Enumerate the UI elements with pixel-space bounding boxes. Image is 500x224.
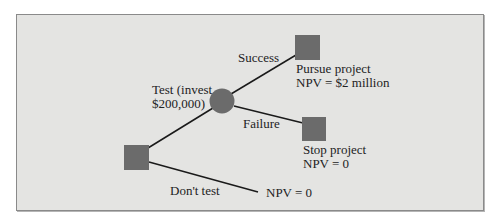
pursue-project-npv: NPV = $2 million	[296, 76, 389, 90]
branch-dont-test-label: Don't test	[170, 184, 220, 198]
branch-test-label-line1: Test (invest	[152, 83, 212, 97]
stop-project-label: Stop project NPV = 0	[303, 143, 366, 171]
branch-failure-label: Failure	[243, 117, 280, 131]
terminal-node-stop	[302, 117, 326, 141]
pursue-project-title: Pursue project	[296, 62, 389, 76]
branch-success-label: Success	[238, 51, 279, 65]
terminal-node-pursue	[295, 35, 320, 60]
pursue-project-label: Pursue project NPV = $2 million	[296, 62, 389, 90]
stop-project-title: Stop project	[303, 143, 366, 157]
dont-test-npv-label: NPV = 0	[266, 186, 312, 200]
stop-project-npv: NPV = 0	[303, 157, 366, 171]
chance-node-test	[210, 89, 235, 114]
branch-test-label-line2: $200,000)	[152, 97, 212, 111]
decision-tree	[0, 0, 500, 224]
branch-test-line	[148, 108, 213, 148]
branch-test-label: Test (invest $200,000)	[152, 83, 212, 111]
decision-node-root	[124, 145, 149, 170]
